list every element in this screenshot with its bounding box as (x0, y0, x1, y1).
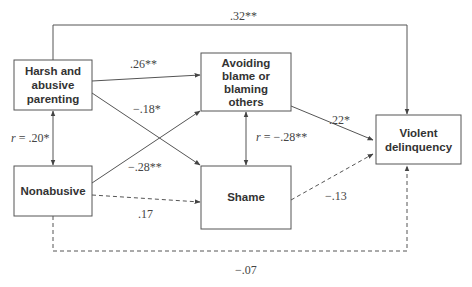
svg-text:Avoiding: Avoiding (222, 57, 271, 69)
coef-harsh-to-shame: −.18* (133, 102, 161, 116)
path-diagram: .32** .26** −.18* −.28** .17 .22* −.13 −… (0, 0, 472, 287)
svg-text:delinquency: delinquency (385, 141, 453, 153)
node-nonabusive: Nonabusive (14, 166, 92, 216)
coef-nonabusive-to-shame: .17 (138, 207, 153, 221)
edge-harsh-to-shame: −.18* (92, 93, 200, 165)
svg-text:Violent: Violent (399, 127, 437, 139)
coef-avoiding-to-violent: .22* (329, 113, 350, 127)
svg-text:abusive: abusive (32, 79, 75, 91)
svg-text:Harsh and: Harsh and (25, 65, 81, 77)
svg-text:Nonabusive: Nonabusive (20, 185, 85, 197)
coef-nonabusive-to-avoiding: −.28** (128, 160, 162, 174)
coef-harsh-to-avoiding: .26** (130, 57, 157, 71)
corr-avoiding-shame-label: r = −.28** (256, 130, 307, 144)
svg-text:blame or: blame or (222, 70, 270, 82)
svg-text:parenting: parenting (27, 93, 79, 105)
node-avoiding-blame: Avoiding blame or blaming others (201, 53, 291, 111)
edge-shame-to-violent: −.13 (291, 154, 373, 203)
svg-text:others: others (228, 96, 263, 108)
edge-harsh-to-avoiding: .26** (92, 57, 200, 81)
corr-avoiding-shame: r = −.28** (246, 112, 307, 165)
svg-text:blaming: blaming (224, 83, 268, 95)
node-shame: Shame (201, 166, 291, 229)
corr-harsh-nonabusive: r = .20* (11, 111, 53, 165)
node-violent-delinquency: Violent delinquency (376, 115, 461, 164)
coef-nonabusive-to-violent: −.07 (235, 263, 257, 277)
corr-harsh-nonabusive-label: r = .20* (11, 131, 49, 145)
coef-shame-to-violent: −.13 (325, 189, 347, 203)
node-harsh-parenting: Harsh and abusive parenting (14, 60, 92, 110)
edge-nonabusive-to-avoiding: −.28** (92, 111, 200, 183)
edge-nonabusive-to-shame: .17 (92, 195, 200, 221)
svg-text:Shame: Shame (227, 191, 265, 203)
coef-harsh-to-violent: .32** (230, 9, 257, 23)
